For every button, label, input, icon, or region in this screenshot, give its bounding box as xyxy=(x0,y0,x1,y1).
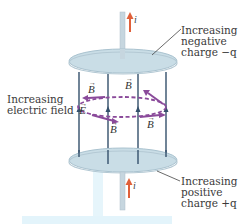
b-label-right-bottom: →B xyxy=(147,119,154,130)
top-plate-label: Increasing negative charge −q xyxy=(181,25,238,58)
b-label-left-bottom: →B xyxy=(110,124,117,135)
bottom-current-arrow-icon xyxy=(126,178,133,198)
b-label-right-top: →B xyxy=(125,80,132,91)
field-line-arrowheads xyxy=(77,106,169,112)
top-current-label: i xyxy=(134,14,137,25)
bottom-leader-line xyxy=(157,171,180,181)
bottom-wire xyxy=(120,172,125,210)
top-current-arrow-icon xyxy=(127,12,134,32)
top-wire-stub xyxy=(120,49,125,59)
top-leader-line xyxy=(152,29,181,55)
bottom-band xyxy=(22,216,172,224)
e-field-symbol: →E xyxy=(79,105,86,116)
b-label-left-top: →B xyxy=(88,84,95,95)
bottom-current-label: i xyxy=(133,180,136,191)
bottom-plate-label: Increasing positive charge +q xyxy=(181,176,238,209)
electric-field-label: Increasing electric field →E xyxy=(7,94,86,116)
